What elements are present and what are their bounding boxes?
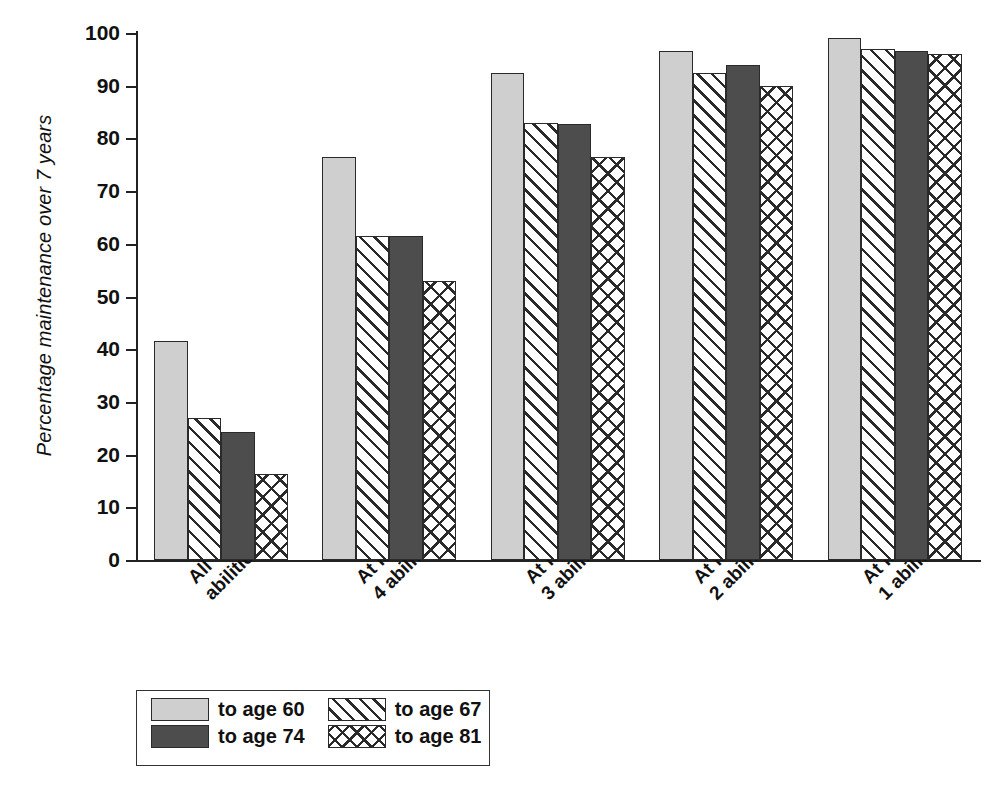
legend-grid: to age 60to age 67to age 74to age 81	[151, 698, 495, 748]
y-axis-tick-mark	[126, 560, 136, 562]
y-axis-tick-label: 80	[97, 126, 120, 150]
bar	[524, 123, 558, 560]
legend-swatch	[328, 698, 386, 721]
y-axis-tick-label: 60	[97, 232, 120, 256]
legend-swatch	[328, 725, 386, 748]
legend-label: to age 74	[218, 725, 319, 748]
bar-group	[322, 33, 456, 560]
plot-area: 0102030405060708090100	[136, 33, 978, 560]
y-axis-tick-mark	[126, 455, 136, 457]
bar	[895, 51, 929, 560]
y-axis-title: Percentage maintenance over 7 years	[33, 76, 56, 496]
y-axis-tick-mark	[126, 349, 136, 351]
legend-label: to age 81	[395, 725, 496, 748]
bar	[154, 341, 188, 560]
y-axis-tick-mark	[126, 138, 136, 140]
legend-label: to age 67	[395, 698, 496, 721]
legend-label: to age 60	[218, 698, 319, 721]
bar-group	[491, 33, 625, 560]
bar-group	[828, 33, 962, 560]
y-axis-tick-mark	[126, 402, 136, 404]
bar	[828, 38, 862, 560]
bar	[356, 236, 390, 560]
bar	[861, 49, 895, 560]
bar	[591, 157, 625, 560]
bar	[928, 54, 962, 560]
bar	[423, 281, 457, 560]
chart-legend: to age 60to age 67to age 74to age 81	[136, 690, 490, 766]
y-axis-tick-label: 0	[108, 548, 120, 572]
bar-chart-figure: Percentage maintenance over 7 years 0102…	[0, 0, 987, 787]
y-axis-tick-mark	[126, 86, 136, 88]
y-axis-tick-label: 50	[97, 285, 120, 309]
y-axis-tick-mark	[126, 33, 136, 35]
bar	[726, 65, 760, 560]
bar-group	[154, 33, 288, 560]
bar	[389, 236, 423, 560]
bar	[491, 73, 525, 560]
bar	[558, 124, 592, 560]
bar	[221, 432, 255, 560]
y-axis-tick-label: 20	[97, 443, 120, 467]
y-axis-tick-label: 90	[97, 74, 120, 98]
y-axis-tick-label: 10	[97, 495, 120, 519]
y-axis-tick-label: 70	[97, 179, 120, 203]
y-axis-tick-mark	[126, 191, 136, 193]
legend-swatch	[151, 725, 209, 748]
legend-swatch	[151, 698, 209, 721]
bar	[188, 418, 222, 560]
y-axis-tick-mark	[126, 244, 136, 246]
bar	[322, 157, 356, 560]
y-axis-tick-label: 40	[97, 337, 120, 361]
y-axis-tick-label: 30	[97, 390, 120, 414]
bar	[693, 73, 727, 560]
y-axis-tick-mark	[126, 297, 136, 299]
y-axis-tick-mark	[126, 507, 136, 509]
y-axis-tick-label: 100	[85, 21, 120, 45]
bar	[760, 86, 794, 560]
bar-group	[659, 33, 793, 560]
bar	[659, 51, 693, 560]
bar	[255, 474, 289, 560]
